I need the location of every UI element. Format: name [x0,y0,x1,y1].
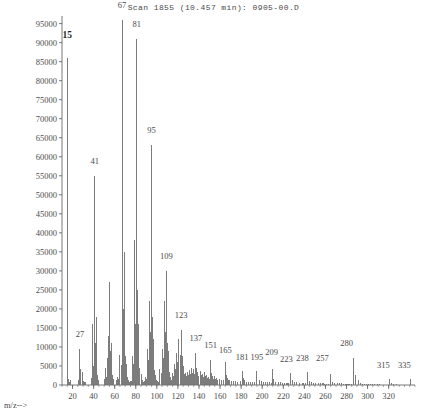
peak-label-335: 335 [398,360,411,370]
spectrum-plot: 0500010000150002000025000300003500040000… [0,0,427,418]
peak-label-209: 209 [265,347,278,357]
y-tick-label: 70000 [36,114,57,124]
y-tick-label: 30000 [36,266,57,276]
x-tick-label: 160 [214,391,227,401]
mass-spectrum-window: Scan 1855 (10.457 min): 0905-00.D 050001… [0,0,427,418]
peak-label-41: 41 [90,156,99,166]
peak-label-123: 123 [175,310,188,320]
peak-label-195: 195 [251,352,264,362]
peak-label-27: 27 [76,329,85,339]
peak-label-67: 67 [118,0,127,10]
y-tick-label: 95000 [36,19,57,29]
peak-label-137: 137 [189,333,202,343]
peak-label-151: 151 [204,340,217,350]
x-tick-label: 200 [256,391,269,401]
x-axis: 2040608010012014016018020022024026028030… [62,385,415,401]
x-tick-label: 140 [193,391,206,401]
x-tick-label: 100 [150,391,163,401]
y-tick-label: 85000 [36,57,57,67]
y-tick-label: 20000 [36,304,57,314]
x-tick-label: 60 [110,391,119,401]
peak-label-95: 95 [147,125,156,135]
x-tick-label: 20 [68,391,77,401]
peak-label-223: 223 [280,354,293,364]
y-tick-label: 45000 [36,209,57,219]
y-tick-label: 75000 [36,95,57,105]
x-tick-label: 220 [277,391,290,401]
y-axis: 0500010000150002000025000300003500040000… [36,16,62,390]
peak-label-181: 181 [236,352,249,362]
peak-label-109: 109 [160,251,173,261]
x-tick-label: 300 [361,391,374,401]
peak-label-257: 257 [316,353,329,363]
y-tick-label: 10000 [36,342,57,352]
y-tick-label: 15000 [36,323,57,333]
x-tick-label: 260 [319,391,332,401]
x-tick-label: 240 [298,391,311,401]
peak-label-280: 280 [340,338,353,348]
x-tick-label: 80 [132,391,141,401]
y-tick-label: 60000 [36,152,57,162]
y-tick-label: 40000 [36,228,57,238]
y-tick-label: 90000 [36,38,57,48]
y-tick-label: 80000 [36,76,57,86]
peak-label-238: 238 [296,353,309,363]
x-tick-label: 120 [172,391,185,401]
x-tick-label: 40 [89,391,98,401]
x-tick-label: 280 [340,391,353,401]
peak-label-315: 315 [377,360,390,370]
y-tick-label: 65000 [36,133,57,143]
y-tick-label: 0 [53,380,57,390]
x-tick-label: 320 [382,391,395,401]
y-tick-label: 50000 [36,190,57,200]
peak-label-165: 165 [219,345,232,355]
x-tick-label: 180 [235,391,248,401]
y-tick-label: 35000 [36,247,57,257]
peak-label-15: 15 [63,30,73,40]
y-tick-label: 5000 [40,361,57,371]
peak-trace [67,20,411,385]
x-axis-label: m/z--> [4,400,27,410]
y-tick-label: 25000 [36,285,57,295]
peak-label-81: 81 [133,19,142,29]
y-tick-label: 55000 [36,171,57,181]
peak-labels: 1527416781951091231371511651811952092232… [63,0,411,370]
